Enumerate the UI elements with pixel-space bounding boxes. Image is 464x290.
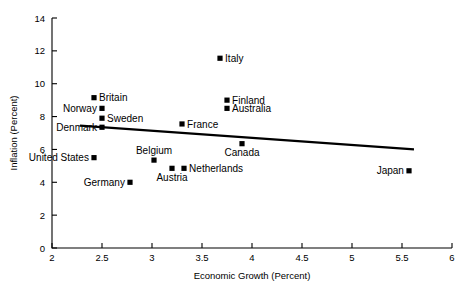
y-tick-label: 2 — [40, 210, 45, 221]
axis-frame — [52, 18, 452, 248]
data-point-marker — [91, 95, 96, 100]
x-axis-tick-labels: 22.533.544.555.56 — [49, 252, 454, 263]
data-point-marker — [99, 125, 104, 130]
data-point-label: France — [187, 119, 219, 130]
data-point-label: Denmark — [56, 122, 98, 133]
data-point-label: Japan — [377, 165, 404, 176]
y-tick-label: 10 — [34, 78, 45, 89]
y-tick-label: 0 — [40, 243, 45, 254]
data-point-marker — [127, 180, 132, 185]
data-point-marker — [217, 56, 222, 61]
data-labels-group: BritainNorwaySwedenDenmarkItalyFinlandAu… — [29, 53, 404, 188]
x-tick-label: 4 — [249, 252, 254, 263]
x-axis-title: Economic Growth (Percent) — [194, 270, 311, 281]
data-point-label: Austria — [156, 172, 188, 183]
x-tick-label: 3.5 — [195, 252, 208, 263]
y-tick-label: 4 — [40, 177, 45, 188]
data-point-marker — [181, 166, 186, 171]
y-axis-tick-labels: 02468101214 — [34, 13, 45, 254]
y-tick-label: 14 — [34, 13, 45, 24]
data-point-marker — [151, 158, 156, 163]
y-tick-label: 8 — [40, 111, 45, 122]
data-point-marker — [179, 121, 184, 126]
x-axis-ticks — [52, 243, 452, 248]
x-tick-label: 3 — [149, 252, 154, 263]
data-point-label: Sweden — [107, 113, 143, 124]
data-point-label: Netherlands — [189, 163, 243, 174]
x-tick-label: 4.5 — [295, 252, 308, 263]
plot-frame — [52, 18, 452, 248]
data-point-marker — [224, 106, 229, 111]
data-point-label: Italy — [225, 53, 243, 64]
data-point-marker — [406, 168, 411, 173]
chart-svg: 22.533.544.555.56 02468101214 Economic G… — [0, 0, 464, 290]
scatter-chart: 22.533.544.555.56 02468101214 Economic G… — [0, 0, 464, 290]
x-tick-label: 2 — [49, 252, 54, 263]
y-tick-label: 12 — [34, 45, 45, 56]
x-tick-label: 5.5 — [395, 252, 408, 263]
data-point-marker — [239, 141, 244, 146]
x-tick-label: 6 — [449, 252, 454, 263]
data-point-marker — [99, 106, 104, 111]
data-point-marker — [224, 98, 229, 103]
y-axis-ticks — [52, 18, 57, 248]
trendline — [80, 126, 414, 150]
x-tick-label: 5 — [349, 252, 354, 263]
data-point-label: Norway — [63, 103, 97, 114]
data-point-marker — [169, 166, 174, 171]
data-point-label: Belgium — [136, 145, 172, 156]
data-point-label: Australia — [232, 103, 271, 114]
data-point-label: United States — [29, 152, 89, 163]
y-axis-title: Inflation (Percent) — [8, 96, 19, 171]
data-point-label: Britain — [99, 92, 127, 103]
data-point-marker — [91, 155, 96, 160]
data-point-marker — [99, 116, 104, 121]
data-point-label: Germany — [84, 177, 125, 188]
data-point-label: Canada — [224, 147, 259, 158]
x-tick-label: 2.5 — [95, 252, 108, 263]
